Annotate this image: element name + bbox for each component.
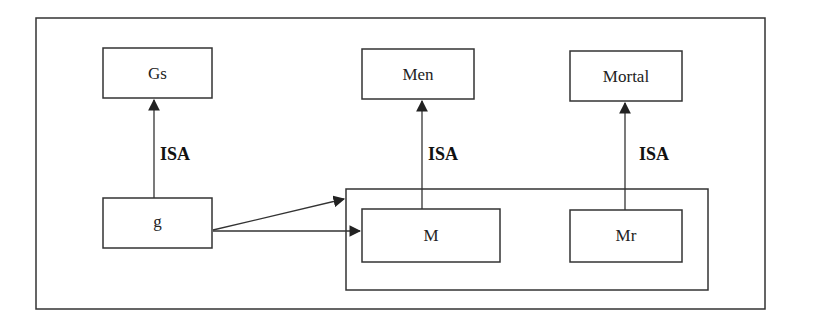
node-mr: Mr — [570, 210, 682, 262]
edge-m-isa-men: ISA — [422, 101, 458, 209]
node-men-label: Men — [402, 65, 434, 84]
isa-diagram: Gs Men Mortal g M Mr ISA ISA ISA — [0, 0, 830, 324]
edge-g-isa-gs: ISA — [154, 100, 190, 198]
node-g: g — [103, 198, 212, 248]
edge-mr-isa-mortal: ISA — [625, 103, 669, 210]
isa-label-men: ISA — [428, 144, 458, 164]
isa-label-mortal: ISA — [639, 144, 669, 164]
node-m: M — [362, 209, 500, 262]
node-m-label: M — [423, 226, 438, 245]
arrow-g-to-group — [213, 199, 344, 230]
isa-label-gs: ISA — [160, 144, 190, 164]
node-gs: Gs — [103, 48, 212, 98]
node-gs-label: Gs — [148, 64, 167, 83]
node-mr-label: Mr — [616, 226, 637, 245]
node-mortal: Mortal — [570, 51, 682, 101]
node-mortal-label: Mortal — [603, 67, 650, 86]
node-g-label: g — [153, 212, 162, 231]
node-men: Men — [362, 49, 474, 99]
